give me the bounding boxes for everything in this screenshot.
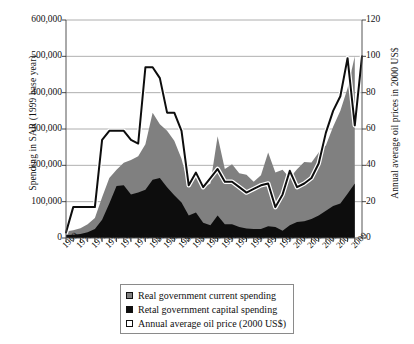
y-tick-label-right: 80 [366, 87, 376, 97]
y-tick-label-left: 500,000 [31, 50, 62, 60]
y-tick-label-right: 100 [366, 50, 380, 60]
legend-item: Annual average oil price (2000 US$) [126, 316, 286, 330]
y-tick-label-left: 400,000 [31, 87, 62, 97]
legend-item-label: Real government current spending [138, 290, 276, 301]
y-axis-title-right: Annual average oil prices in 2000 US$ [390, 28, 400, 218]
black-square-icon [126, 306, 133, 313]
white-square-icon [126, 320, 133, 327]
y-tick-label-right: 120 [366, 14, 380, 24]
gray-square-icon [126, 292, 133, 299]
legend-item-label: Annual average oil price (2000 US$) [138, 318, 286, 329]
chart-figure: Spending in SAR (1999 base year) Annual … [0, 0, 414, 344]
y-tick-label-left: 100,000 [31, 196, 62, 206]
legend-item: Retal government capital spending [126, 302, 286, 316]
y-tick-label-right: 20 [366, 196, 376, 206]
y-tick-label-left: 600,000 [31, 14, 62, 24]
y-tick-label-right: 40 [366, 159, 376, 169]
legend-item-label: Retal government capital spending [138, 304, 277, 315]
legend-item: Real government current spending [126, 288, 286, 302]
y-tick-label-left: 300,000 [31, 123, 62, 133]
chart-legend: Real government current spendingRetal go… [120, 284, 294, 334]
y-tick-label-left: 200,000 [31, 159, 62, 169]
y-tick-label-right: 60 [366, 123, 376, 133]
